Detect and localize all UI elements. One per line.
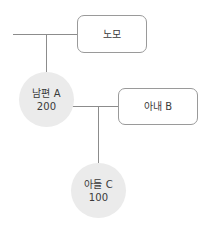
node-husband-a[interactable]: 남편 A 200 [19,72,74,127]
node-husband-a-label: 남편 A [32,87,60,100]
node-wife-b-label: 아내 B [144,100,172,113]
diagram-canvas: 노모 남편 A 200 아내 B 아들 C 100 [0,0,206,225]
node-son-c[interactable]: 아들 C 100 [71,163,126,218]
node-nomo[interactable]: 노모 [77,15,147,53]
node-wife-b[interactable]: 아내 B [118,88,198,125]
node-son-c-value: 100 [89,191,108,204]
node-nomo-label: 노모 [103,28,121,41]
node-husband-a-value: 200 [37,100,56,113]
node-son-c-label: 아들 C [84,178,113,191]
